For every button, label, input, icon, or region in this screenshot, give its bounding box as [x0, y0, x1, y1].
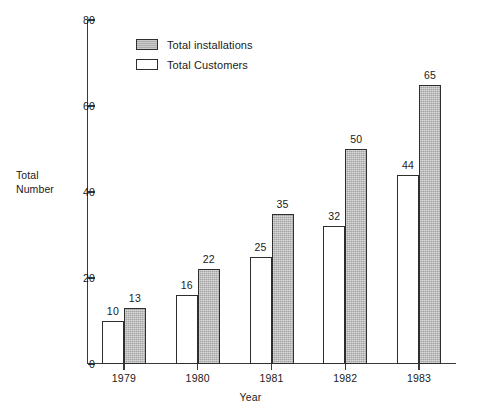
bar-value-label: 22: [203, 254, 215, 265]
bar-customers-1982: 32: [323, 226, 345, 364]
bar-value-label: 32: [328, 211, 340, 222]
bar-customers-1980: 16: [176, 295, 198, 364]
y-axis-title: Total Number: [16, 169, 76, 196]
bar-installations-1981: 35: [272, 214, 294, 365]
x-tick-label-1982: 1982: [315, 372, 375, 384]
x-tick-mark: [197, 364, 198, 370]
y-axis-title-line-2: Number: [16, 183, 76, 197]
bar-installations-1983: 65: [419, 85, 441, 365]
bar-chart: Total installations Total Customers 0204…: [0, 0, 481, 410]
bar-group: 1622: [176, 20, 220, 364]
x-tick-mark: [271, 364, 272, 370]
x-tick-label-1980: 1980: [168, 372, 228, 384]
bar-customers-1979: 10: [102, 321, 124, 364]
bar-group: 4465: [397, 20, 441, 364]
bar-value-label: 16: [181, 280, 193, 291]
bar-value-label: 25: [254, 242, 266, 253]
bar-value-label: 44: [402, 160, 414, 171]
bar-customers-1983: 44: [397, 175, 419, 364]
x-tick-mark: [418, 364, 419, 370]
y-axis-title-line-1: Total: [16, 169, 76, 183]
bar-installations-1982: 50: [345, 149, 367, 364]
bar-value-label: 50: [350, 134, 362, 145]
bar-group: 2535: [250, 20, 294, 364]
bar-value-label: 13: [129, 293, 141, 304]
bar-value-label: 65: [424, 70, 436, 81]
x-tick-label-1979: 1979: [94, 372, 154, 384]
x-axis-title: Year: [0, 392, 481, 403]
bar-group: 3250: [323, 20, 367, 364]
bar-value-label: 35: [276, 199, 288, 210]
bar-installations-1979: 13: [124, 308, 146, 364]
bar-value-label: 10: [107, 306, 119, 317]
bar-installations-1980: 22: [198, 269, 220, 364]
x-tick-label-1981: 1981: [242, 372, 302, 384]
plot-area: 10131622253532504465: [87, 20, 456, 364]
x-tick-mark: [123, 364, 124, 370]
x-tick-label-1983: 1983: [389, 372, 449, 384]
bar-group: 1013: [102, 20, 146, 364]
bar-customers-1981: 25: [250, 257, 272, 365]
x-tick-mark: [345, 364, 346, 370]
